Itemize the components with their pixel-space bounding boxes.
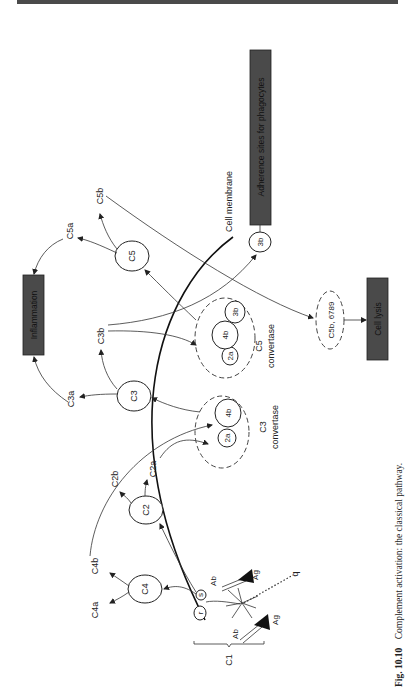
c3-label: C3	[129, 390, 139, 402]
ab-lower-label: Ab	[231, 629, 240, 639]
antibody-antigen-lower: Ab Ag	[231, 614, 280, 643]
c5-convertase: 2a 4b 3b C5 convertase	[195, 298, 276, 378]
inflammation-label: Inflammation	[29, 290, 39, 339]
c5-label: C5	[127, 250, 137, 262]
c3b-label: C3b	[96, 328, 106, 345]
adherence-label: Adherence sites for phagocytes	[256, 77, 266, 196]
cell-membrane-line	[152, 237, 233, 620]
ag-upper-label: Ag	[251, 570, 260, 580]
q-label: q	[290, 571, 300, 576]
adherence-box: Adherence sites for phagocytes	[250, 50, 271, 225]
c1-label: C1	[224, 654, 234, 666]
c3b-bound-label: 3b	[256, 237, 265, 246]
caption-text: Complement activation: the classical pat…	[394, 463, 404, 639]
c3a-label: C3a	[66, 391, 76, 408]
c5-conv-3b: 3b	[231, 307, 240, 316]
c3-convertase-label: convertase	[270, 405, 280, 449]
svg-text:Fig. 10.10 Complement ac: Fig. 10.10 Complement activation: the cl…	[394, 463, 404, 687]
c5-conv-2a: 2a	[226, 351, 235, 360]
c4b-label: C4b	[90, 558, 100, 575]
c5-conv-4b: 4b	[221, 330, 230, 339]
ag-lower-label: Ag	[271, 615, 280, 625]
cell-lysis-box: Cell lysis	[367, 278, 388, 360]
c2-label: C2	[141, 504, 151, 516]
c3-convertase-name: C3	[258, 421, 268, 433]
figure-caption: Fig. 10.10 Complement activation: the cl…	[394, 463, 404, 687]
c5-convertase-name: C5	[254, 340, 264, 352]
c2a-label: C2a	[148, 461, 158, 478]
c3-conv-4b: 4b	[224, 408, 233, 417]
c1-r-label: r	[196, 611, 205, 614]
classical-pathway-diagram: Cell membrane Inflammation Adherence sit…	[0, 0, 412, 696]
c5b6789-complex: C5b, 6789	[316, 291, 366, 349]
c5b6789-label: C5b, 6789	[327, 301, 336, 338]
caption-label: Fig. 10.10	[394, 647, 404, 687]
c5a-label: C5a	[65, 223, 75, 240]
c1-brace: C1	[194, 641, 264, 666]
cell-membrane-label: Cell membrane	[224, 171, 234, 232]
c5b-label: C5b	[95, 188, 105, 205]
c4a-label: C4a	[90, 602, 100, 619]
c4-label: C4	[140, 583, 150, 595]
inflammation-box: Inflammation	[23, 275, 44, 355]
c5-convertase-label: convertase	[266, 324, 276, 368]
ab-upper-label: Ab	[209, 576, 218, 586]
c1-s-label: s	[196, 593, 205, 597]
c3-convertase: 2a 4b C3 convertase	[195, 396, 280, 468]
antibody-antigen-upper: Ab Ag	[209, 569, 260, 591]
c3-conv-2a: 2a	[223, 433, 232, 442]
cell-lysis-label: Cell lysis	[373, 302, 383, 336]
